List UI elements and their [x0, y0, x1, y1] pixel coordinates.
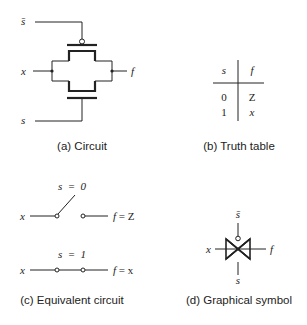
panel-c-equivalent-circuit [30, 195, 108, 272]
symbol-label-f: f [270, 243, 275, 255]
label-s-bar: s̄ [21, 15, 26, 27]
junction-dot-icon [50, 69, 53, 72]
symbol-label-s-bar: s̄ [236, 208, 241, 220]
inversion-bubble-icon [80, 39, 85, 44]
caption-d: (d) Graphical symbol [186, 294, 292, 306]
output-case1: f = x [113, 264, 134, 276]
caption-b: (b) Truth table [203, 140, 275, 152]
label-f: f [131, 65, 136, 77]
label-x-case1: x [19, 264, 25, 276]
label-x: x [20, 65, 26, 77]
panel-a-circuit [33, 22, 127, 121]
truth-header-f: f [250, 64, 255, 76]
transmission-gate-symbol-icon [215, 223, 266, 275]
symbol-label-s: s [236, 274, 240, 286]
condition-s0: s = 0 [58, 180, 87, 192]
truth-cell: 1 [221, 106, 227, 118]
truth-header-s: s [222, 64, 226, 76]
label-x-case0: x [19, 210, 25, 222]
condition-s1: s = 1 [58, 248, 86, 260]
symbol-label-x: x [205, 243, 211, 255]
label-s: s [21, 114, 25, 126]
truth-cell: x [249, 106, 255, 118]
caption-a: (a) Circuit [57, 140, 108, 152]
truth-cell: 0 [221, 91, 227, 103]
caption-c: (c) Equivalent circuit [20, 294, 124, 306]
transmission-gate-figure: s̄ x f s (a) Circuit s f 0 Z 1 x (b) Tru… [0, 0, 307, 325]
output-case0: f = Z [113, 210, 135, 222]
junction-dot-icon [110, 69, 113, 72]
truth-cell: Z [249, 91, 256, 103]
